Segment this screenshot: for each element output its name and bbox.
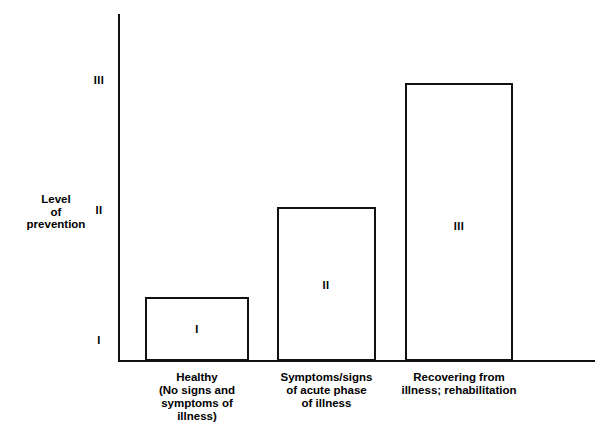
x-axis-category-label-1: Healthy (No signs and symptoms of illnes…: [127, 371, 267, 423]
y-axis-title-line-2: of: [14, 206, 98, 219]
x-axis-category-label-3: Recovering from illness; rehabilitation: [383, 371, 535, 397]
bar-value-label-2: II: [322, 279, 329, 291]
category-2-line-1: Symptoms/signs: [258, 371, 395, 384]
category-1-line-4: illness): [127, 410, 267, 423]
category-3-line-1: Recovering from: [383, 371, 535, 384]
y-axis-tick-label-i: I: [86, 334, 112, 346]
y-axis-title-line-1: Level: [14, 193, 98, 206]
bar-value-label-3: III: [454, 220, 465, 232]
y-axis-title: Level of prevention: [14, 193, 98, 231]
y-axis-tick-label-iii: III: [86, 74, 112, 86]
category-1-line-2: (No signs and: [127, 384, 267, 397]
category-3-line-2: illness; rehabilitation: [383, 384, 535, 397]
x-axis-category-label-2: Symptoms/signs of acute phase of illness: [258, 371, 395, 410]
category-1-line-3: symptoms of: [127, 397, 267, 410]
category-2-line-2: of acute phase: [258, 384, 395, 397]
bar-value-label-1: I: [195, 323, 199, 335]
y-axis-title-line-3: prevention: [14, 218, 98, 231]
category-2-line-3: of illness: [258, 397, 395, 410]
bar-chart: III II I Level of prevention I II III He…: [0, 0, 609, 439]
category-1-line-1: Healthy: [127, 371, 267, 384]
y-axis-line: [118, 14, 120, 362]
